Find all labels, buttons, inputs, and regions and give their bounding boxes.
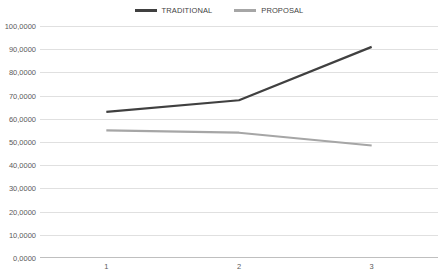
y-axis-tick-label: 60,0000 bbox=[9, 114, 36, 123]
legend-label-traditional: TRADITIONAL bbox=[162, 6, 213, 15]
series-container bbox=[40, 26, 438, 258]
y-axis-tick-label: 70,0000 bbox=[9, 91, 36, 100]
y-axis-tick-label: 20,0000 bbox=[9, 207, 36, 216]
y-axis-tick-label: 10,0000 bbox=[9, 230, 36, 239]
y-axis-tick-label: 30,0000 bbox=[9, 184, 36, 193]
plot-area bbox=[40, 26, 438, 258]
line-chart: TRADITIONAL PROPOSAL 100,000090,000080,0… bbox=[0, 0, 438, 278]
legend-label-proposal: PROPOSAL bbox=[261, 6, 303, 15]
chart-legend: TRADITIONAL PROPOSAL bbox=[0, 2, 438, 18]
x-axis-tick-label: 2 bbox=[237, 262, 241, 271]
x-axis-tick-label: 1 bbox=[104, 262, 108, 271]
legend-line-swatch-icon bbox=[234, 9, 256, 12]
x-axis-tick-label: 3 bbox=[370, 262, 374, 271]
y-axis-tick-label: 80,0000 bbox=[9, 68, 36, 77]
y-axis-tick-label: 0,0000 bbox=[13, 254, 36, 263]
legend-item-traditional[interactable]: TRADITIONAL bbox=[135, 6, 213, 15]
legend-line-swatch-icon bbox=[135, 9, 157, 12]
y-axis-labels: 100,000090,000080,000070,000060,000050,0… bbox=[0, 26, 36, 258]
y-axis-tick-label: 100,0000 bbox=[5, 22, 36, 31]
y-axis-tick-label: 50,0000 bbox=[9, 138, 36, 147]
x-axis-labels: 123 bbox=[40, 258, 438, 278]
legend-item-proposal[interactable]: PROPOSAL bbox=[234, 6, 303, 15]
y-axis-tick-label: 40,0000 bbox=[9, 161, 36, 170]
series-line-traditional[interactable] bbox=[106, 47, 371, 112]
series-line-proposal[interactable] bbox=[106, 130, 371, 145]
y-axis-tick-label: 90,0000 bbox=[9, 45, 36, 54]
